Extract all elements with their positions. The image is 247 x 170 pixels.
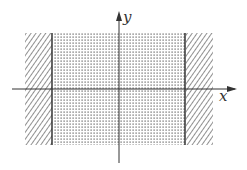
x-axis-label: x xyxy=(219,87,228,105)
strip-diagram: y x xyxy=(0,0,247,170)
y-axis-label: y xyxy=(122,8,132,26)
y-axis-arrow-icon xyxy=(116,11,122,21)
x-axis-arrow-icon xyxy=(227,86,237,92)
